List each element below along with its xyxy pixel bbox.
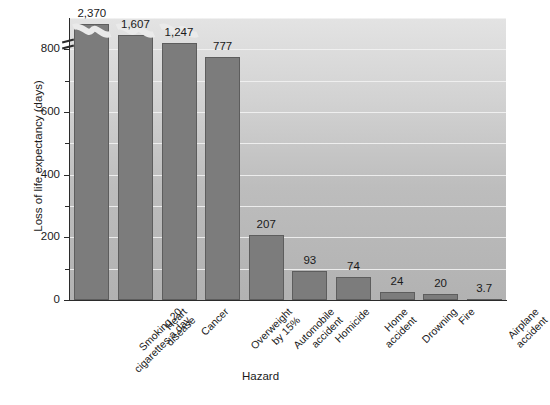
y-tick	[64, 237, 70, 238]
y-tick-minor	[65, 206, 70, 207]
x-axis-line	[69, 300, 507, 301]
category-label: Airplaneaccident	[506, 306, 550, 350]
y-tick-minor	[65, 81, 70, 82]
y-tick-minor	[65, 143, 70, 144]
bar-value-label: 3.7	[454, 283, 514, 295]
y-tick-label: 0	[16, 294, 60, 306]
y-axis-line	[69, 18, 70, 300]
bar	[336, 277, 371, 300]
category-label: Homeaccident	[375, 306, 419, 350]
y-axis-title: Loss of life expectancy (days)	[32, 36, 44, 276]
bar-value-label: 1,247	[149, 27, 209, 39]
y-tick-minor	[65, 269, 70, 270]
category-label: Fire	[456, 306, 477, 327]
bar-value-label: 207	[236, 219, 296, 231]
x-axis-title: Hazard	[0, 370, 521, 382]
bar	[118, 35, 153, 300]
bar	[74, 24, 109, 300]
bar	[292, 271, 327, 300]
y-tick	[64, 112, 70, 113]
y-tick	[64, 175, 70, 176]
bar	[380, 292, 415, 300]
y-tick	[64, 49, 70, 50]
bar	[162, 43, 197, 300]
category-label: Drowning	[420, 306, 460, 346]
category-label: Overweightby 15%	[248, 306, 302, 360]
bar-value-label: 74	[323, 261, 383, 273]
bar	[249, 235, 284, 300]
y-tick	[64, 300, 70, 301]
bar-value-label: 2,370	[62, 8, 122, 20]
bar	[205, 57, 240, 300]
bar-value-label: 777	[193, 41, 253, 53]
category-label: Cancer	[199, 306, 231, 338]
